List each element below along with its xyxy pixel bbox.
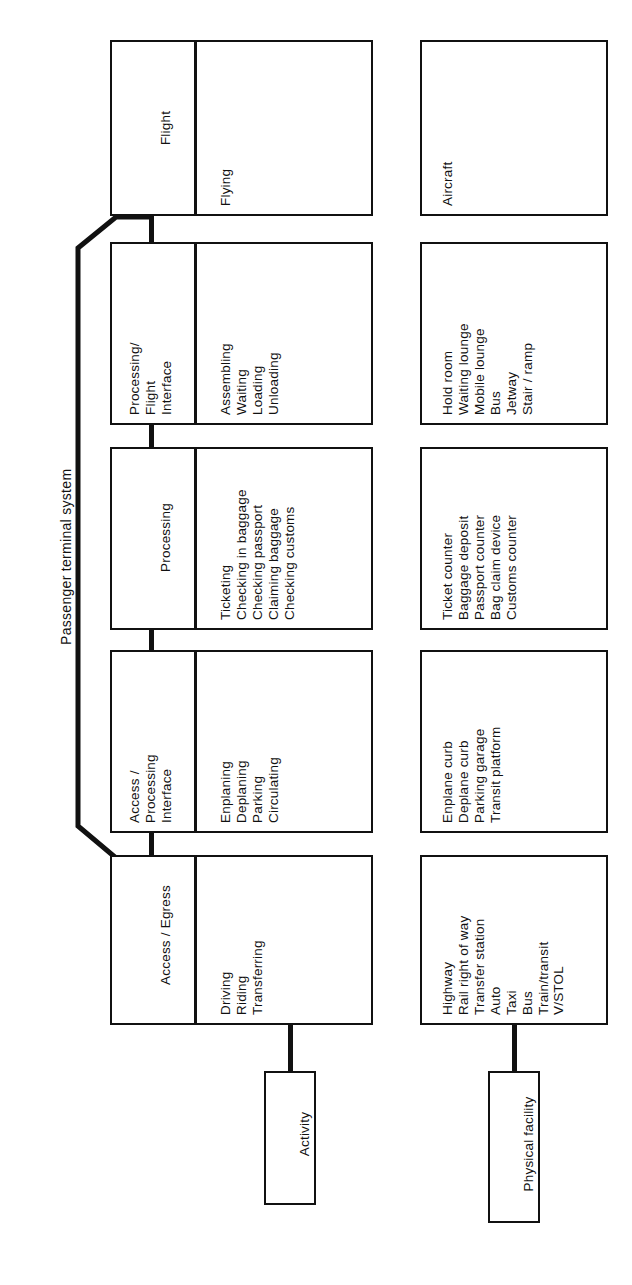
- facility-list-processing: Ticket counter Baggage deposit Passport …: [440, 455, 520, 620]
- connector-activity-label: [288, 1024, 293, 1071]
- row-label-activity: Activity: [297, 1072, 313, 1196]
- stage-name-flight: Flight: [158, 50, 174, 206]
- stage-box-access-processing-interface-divider: [194, 650, 197, 833]
- stage-activities-processing-flight-interface: Assembling Waiting Loading Unloading: [218, 250, 282, 415]
- connector-flight-to-pfi: [149, 216, 154, 243]
- connector-api-to-access-egress: [149, 832, 154, 856]
- stage-name-access-egress: Access / Egress: [158, 855, 174, 1015]
- stage-name-processing: Processing: [158, 455, 174, 620]
- facility-list-processing-flight-interface: Hold room Waiting lounge Mobile lounge B…: [440, 250, 536, 415]
- stage-box-processing-flight-interface-divider: [194, 242, 197, 425]
- stage-box-processing-divider: [194, 447, 197, 630]
- stage-activities-flight: Flying: [218, 50, 234, 206]
- diagram-canvas: Passenger terminal system Flight Flying …: [0, 0, 632, 1285]
- stage-box-access-egress-divider: [194, 855, 197, 1025]
- stage-activities-access-processing-interface: Enplaning Deplaning Parking Circulating: [218, 658, 282, 823]
- stage-box-flight-divider: [194, 40, 197, 216]
- stage-activities-processing: Ticketing Checking in baggage Checking p…: [218, 455, 298, 620]
- facility-list-flight: Aircraft: [440, 46, 456, 206]
- stage-name-processing-flight-interface: Processing/ Flight Interface: [127, 250, 175, 415]
- stage-name-access-processing-interface: Access / Processing Interface: [127, 658, 175, 823]
- system-bracket-label: Passenger terminal system: [58, 469, 74, 645]
- facility-list-access-processing-interface: Enplane curb Deplane curb Parking garage…: [440, 658, 504, 823]
- row-label-physical-facility: Physical facility: [521, 1073, 537, 1215]
- connector-facility-label: [512, 1024, 517, 1071]
- stage-activities-access-egress: Driving Riding Transferring: [218, 855, 266, 1015]
- stage-box-flight[interactable]: [110, 40, 373, 216]
- facility-list-access-egress: Highway Rail right of way Transfer stati…: [440, 855, 567, 1015]
- connector-pfi-to-processing: [149, 424, 154, 448]
- connector-processing-to-api: [149, 629, 154, 651]
